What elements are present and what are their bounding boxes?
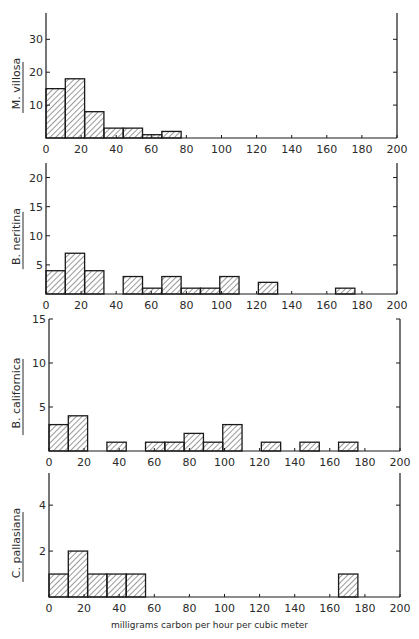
x-axis-title: milligrams carbon per hour per cubic met…: [0, 620, 419, 630]
histogram-bar: [339, 574, 358, 597]
x-tick-label: 180: [351, 143, 372, 156]
y-axis-species-label: C. pallasiana: [10, 508, 23, 579]
x-tick-label: 80: [182, 602, 196, 615]
x-tick-label: 60: [147, 602, 161, 615]
histogram-bar: [126, 574, 145, 597]
x-tick-label: 140: [281, 299, 302, 312]
x-tick-label: 80: [182, 456, 196, 469]
y-tick-label: 30: [29, 33, 43, 46]
histogram-bar: [65, 79, 84, 138]
histogram-bar: [220, 277, 239, 294]
x-tick-label: 0: [43, 299, 50, 312]
x-tick-label: 120: [249, 456, 270, 469]
y-axis-species-label: B. californica: [10, 357, 23, 428]
histogram-bar: [85, 271, 104, 294]
x-tick-label: 100: [214, 602, 235, 615]
x-tick-label: 200: [390, 602, 411, 615]
histogram-bar: [181, 288, 200, 294]
y-tick-label: 15: [32, 313, 46, 326]
x-tick-label: 140: [281, 143, 302, 156]
x-tick-label: 160: [316, 299, 337, 312]
histogram-panel: 24020406080100120140160180200C. pallasia…: [10, 473, 411, 615]
x-tick-label: 120: [246, 299, 267, 312]
histogram-bar: [123, 128, 142, 138]
y-tick-label: 10: [32, 357, 46, 370]
histogram-panel: 51015020406080100120140160180200B. calif…: [10, 313, 411, 469]
x-tick-label: 180: [354, 602, 375, 615]
histogram-bar: [46, 271, 65, 294]
histogram-bar: [143, 288, 162, 294]
x-tick-label: 100: [214, 456, 235, 469]
x-tick-label: 80: [179, 143, 193, 156]
histogram-bar: [300, 442, 319, 451]
x-tick-label: 160: [319, 602, 340, 615]
histogram-bar: [146, 442, 165, 451]
histogram-bar: [104, 128, 123, 138]
x-tick-label: 180: [351, 299, 372, 312]
x-tick-label: 20: [77, 602, 91, 615]
histogram-bar: [339, 442, 358, 451]
x-tick-label: 200: [390, 456, 411, 469]
histogram-bar: [49, 425, 68, 451]
x-tick-label: 100: [211, 299, 232, 312]
histogram-panel: 102030020406080100120140160180200M. vill…: [10, 13, 408, 156]
histogram-bar: [49, 574, 68, 597]
x-tick-label: 200: [387, 299, 408, 312]
histogram-bar: [258, 282, 277, 294]
x-tick-label: 60: [147, 456, 161, 469]
y-tick-label: 2: [39, 545, 46, 558]
histogram-bar: [65, 253, 84, 294]
x-tick-label: 200: [387, 143, 408, 156]
histogram-bar: [85, 112, 104, 138]
histogram-bar: [68, 416, 87, 451]
x-tick-label: 100: [211, 143, 232, 156]
x-tick-label: 0: [43, 143, 50, 156]
y-tick-label: 20: [29, 172, 43, 185]
x-tick-label: 20: [74, 299, 88, 312]
x-tick-label: 140: [284, 456, 305, 469]
y-tick-label: 20: [29, 66, 43, 79]
x-tick-label: 160: [319, 456, 340, 469]
histogram-bar: [200, 288, 219, 294]
x-tick-label: 20: [74, 143, 88, 156]
x-tick-label: 40: [112, 602, 126, 615]
x-tick-label: 40: [109, 299, 123, 312]
y-tick-label: 4: [39, 499, 46, 512]
histogram-bar: [162, 277, 181, 294]
x-tick-label: 160: [316, 143, 337, 156]
x-tick-label: 120: [249, 602, 270, 615]
histogram-bar: [88, 574, 107, 597]
x-tick-label: 180: [354, 456, 375, 469]
x-tick-label: 0: [46, 456, 53, 469]
y-tick-label: 15: [29, 201, 43, 214]
x-tick-label: 60: [144, 299, 158, 312]
histogram-bar: [162, 131, 181, 138]
y-tick-label: 5: [39, 401, 46, 414]
x-tick-label: 20: [77, 456, 91, 469]
histogram-bar: [203, 442, 222, 451]
histogram-panel: 5101520020406080100120140160180200B. ner…: [10, 163, 408, 312]
x-tick-label: 40: [109, 143, 123, 156]
x-tick-label: 80: [179, 299, 193, 312]
y-tick-label: 5: [36, 259, 43, 272]
histogram-bar: [165, 442, 184, 451]
x-tick-label: 60: [144, 143, 158, 156]
x-tick-label: 120: [246, 143, 267, 156]
y-axis-species-label: M. villosa: [10, 58, 23, 109]
histogram-bar: [46, 89, 65, 138]
y-tick-label: 10: [29, 99, 43, 112]
x-tick-label: 40: [112, 456, 126, 469]
histogram-figure: 102030020406080100120140160180200M. vill…: [0, 0, 419, 639]
histogram-bar: [336, 288, 355, 294]
histogram-bar: [261, 442, 280, 451]
histogram-bar: [184, 433, 203, 451]
x-tick-label: 140: [284, 602, 305, 615]
histogram-bar: [123, 277, 142, 294]
histogram-bar: [68, 551, 87, 597]
y-axis-species-label: B. neritina: [10, 208, 23, 265]
histogram-bar: [107, 574, 126, 597]
histogram-bar: [223, 425, 242, 451]
histogram-bar: [107, 442, 126, 451]
y-tick-label: 10: [29, 230, 43, 243]
x-tick-label: 0: [46, 602, 53, 615]
